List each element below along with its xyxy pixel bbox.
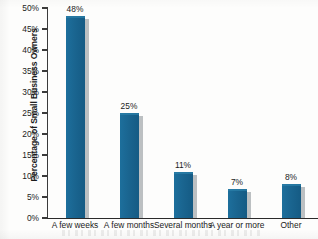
bar-fill: [174, 172, 193, 218]
y-axis-tick-label: 10%: [0, 171, 39, 181]
plot-area: [48, 8, 318, 218]
page-bleed-through-artifact: [62, 230, 262, 236]
y-axis-tick: [42, 154, 48, 155]
bar-top-highlight: [66, 16, 85, 18]
y-axis-tick-label: 30%: [0, 87, 39, 97]
bar-fill: [120, 113, 139, 218]
bar-fill: [228, 189, 247, 218]
bar-value-label: 8%: [271, 172, 311, 182]
y-axis-tick: [42, 28, 48, 29]
x-axis-line: [47, 218, 318, 220]
bar-value-label: 11%: [163, 160, 203, 170]
bar-top-highlight: [120, 113, 139, 115]
y-axis-tick-label: 50%: [0, 3, 39, 13]
bar-fill: [282, 184, 301, 218]
bar-top-highlight: [228, 189, 247, 191]
bar[interactable]: [120, 113, 139, 218]
bar[interactable]: [174, 172, 193, 218]
bar-value-label: 48%: [55, 4, 95, 14]
y-axis-tick-label: 15%: [0, 150, 39, 160]
y-axis-tick: [42, 49, 48, 50]
bar[interactable]: [228, 189, 247, 218]
bar-top-highlight: [174, 172, 193, 174]
y-axis-tick: [42, 91, 48, 92]
bar[interactable]: [66, 16, 85, 218]
bar-value-label: 7%: [217, 177, 257, 187]
x-axis-category-label: Other: [257, 220, 318, 230]
y-axis-tick-label: 20%: [0, 129, 39, 139]
y-axis-tick-label: 35%: [0, 66, 39, 76]
bar-fill: [66, 16, 85, 218]
bar-value-label: 25%: [109, 101, 149, 111]
chart-screenshot: Percentage of Small Business Owners 0%5%…: [0, 0, 318, 239]
y-axis-tick-label: 40%: [0, 45, 39, 55]
y-axis-tick: [42, 70, 48, 71]
y-axis-tick-label: 45%: [0, 24, 39, 34]
y-axis-tick: [42, 7, 48, 8]
y-axis-tick: [42, 175, 48, 176]
y-axis-tick: [42, 112, 48, 113]
y-axis-tick-label: 25%: [0, 108, 39, 118]
y-axis-tick: [42, 133, 48, 134]
bar[interactable]: [282, 184, 301, 218]
bar-top-highlight: [282, 184, 301, 186]
y-axis-tick: [42, 196, 48, 197]
y-axis-tick-label: 5%: [0, 192, 39, 202]
y-axis-tick-label: 0%: [0, 213, 39, 223]
